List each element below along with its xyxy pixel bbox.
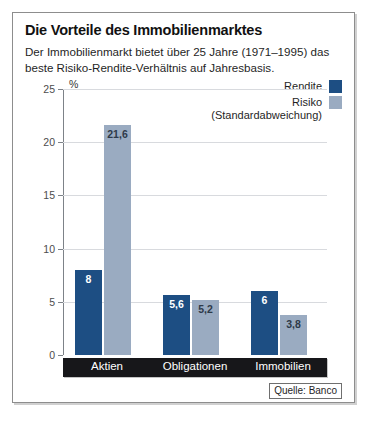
y-tick-label: 15 <box>43 189 55 201</box>
bar-value-label: 21,6 <box>104 128 131 140</box>
plot-area: % 0510152025 821,65,65,263,8 <box>63 89 327 355</box>
legend-swatch-risiko <box>329 96 342 109</box>
y-axis-line <box>63 89 64 355</box>
figure-frame: Die Vorteile des Immobilienmarktes Der I… <box>12 12 355 403</box>
gridline <box>63 249 327 250</box>
y-tick-label: 0 <box>49 349 55 361</box>
bar-risiko-immobilien: 3,8 <box>280 315 307 355</box>
gridline <box>63 89 327 90</box>
bar-rendite-immobilien: 6 <box>251 291 278 355</box>
bar-value-label: 5,2 <box>192 303 219 315</box>
y-tick-mark <box>58 302 63 303</box>
bar-rendite-aktien: 8 <box>75 270 102 355</box>
y-tick-label: 25 <box>43 83 55 95</box>
bar-value-label: 3,8 <box>280 318 307 330</box>
bar-risiko-aktien: 21,6 <box>104 125 131 355</box>
y-tick-mark <box>58 89 63 90</box>
legend-swatch-rendite <box>329 80 342 93</box>
gridline <box>63 142 327 143</box>
category-label-obligationen: Obligationen <box>151 360 239 372</box>
y-tick-label: 10 <box>43 243 55 255</box>
y-tick-mark <box>58 355 63 356</box>
bar-rendite-obligationen: 5,6 <box>163 295 190 355</box>
y-tick-mark <box>58 249 63 250</box>
category-label-immobilien: Immobilien <box>239 360 327 372</box>
bar-value-label: 6 <box>251 294 278 306</box>
y-tick-mark <box>58 142 63 143</box>
gridline <box>63 195 327 196</box>
category-label-aktien: Aktien <box>63 360 151 372</box>
chart-subtitle: Der Immobilienmarkt bietet über 25 Jahre… <box>25 44 345 75</box>
category-axis-band: AktienObligationenImmobilien <box>63 358 327 377</box>
bar-risiko-obligationen: 5,2 <box>192 300 219 355</box>
bar-value-label: 8 <box>75 273 102 285</box>
y-tick-label: 20 <box>43 136 55 148</box>
bar-value-label: 5,6 <box>163 298 190 310</box>
source-note: Quelle: Banco <box>269 383 342 399</box>
y-tick-mark <box>58 195 63 196</box>
chart-title: Die Vorteile des Immobilienmarktes <box>25 22 262 38</box>
y-tick-label: 5 <box>49 296 55 308</box>
